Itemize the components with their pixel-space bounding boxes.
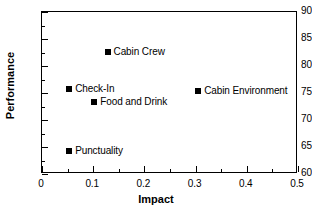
y-tick-major xyxy=(42,174,48,175)
x-tick-label: 0.3 xyxy=(175,179,215,189)
y-tick-minor xyxy=(42,107,45,108)
y-tick-major xyxy=(42,147,48,148)
data-point-label: Punctuality xyxy=(75,145,123,156)
y-tick-major xyxy=(42,93,48,94)
y-tick-minor xyxy=(42,26,45,27)
y-tick-label: 60 xyxy=(278,168,312,178)
data-point-label: Cabin Environment xyxy=(204,85,287,96)
x-tick-label: 0.2 xyxy=(123,179,163,189)
y-tick-minor xyxy=(42,53,45,54)
plot-area: Cabin CrewCheck-InFood and DrinkCabin En… xyxy=(41,11,297,173)
data-point-marker xyxy=(66,148,72,154)
x-tick-minor xyxy=(170,169,171,172)
y-tick-label: 90 xyxy=(278,6,312,16)
y-tick-minor xyxy=(42,134,45,135)
y-tick-label: 70 xyxy=(278,114,312,124)
scatter-chart: Cabin CrewCheck-InFood and DrinkCabin En… xyxy=(0,0,312,212)
y-tick-minor xyxy=(42,80,45,81)
data-point-label: Check-In xyxy=(75,83,114,94)
y-tick-major xyxy=(42,120,48,121)
y-tick-minor xyxy=(42,161,45,162)
x-tick-minor xyxy=(221,169,222,172)
x-tick-major xyxy=(93,166,94,172)
x-tick-major xyxy=(42,166,43,172)
data-point-marker xyxy=(66,86,72,92)
x-tick-label: 0 xyxy=(21,179,61,189)
y-tick-label: 80 xyxy=(278,60,312,70)
x-tick-minor xyxy=(272,169,273,172)
x-tick-major xyxy=(247,166,248,172)
y-tick-label: 65 xyxy=(278,141,312,151)
x-axis-title: Impact xyxy=(0,194,312,205)
y-tick-major xyxy=(42,12,48,13)
y-tick-label: 75 xyxy=(278,87,312,97)
y-axis-title: Performance xyxy=(5,21,16,151)
x-tick-minor xyxy=(68,169,69,172)
data-point-marker xyxy=(91,99,97,105)
data-point-marker xyxy=(105,49,111,55)
x-tick-minor xyxy=(119,169,120,172)
x-tick-label: 0.4 xyxy=(226,179,266,189)
data-point-marker xyxy=(195,88,201,94)
x-tick-label: 0.5 xyxy=(277,179,312,189)
x-tick-label: 0.1 xyxy=(72,179,112,189)
y-tick-major xyxy=(42,39,48,40)
y-tick-label: 85 xyxy=(278,33,312,43)
data-point-label: Food and Drink xyxy=(100,96,167,107)
x-tick-major xyxy=(144,166,145,172)
y-tick-major xyxy=(42,66,48,67)
x-tick-major xyxy=(196,166,197,172)
data-point-label: Cabin Crew xyxy=(114,46,165,57)
